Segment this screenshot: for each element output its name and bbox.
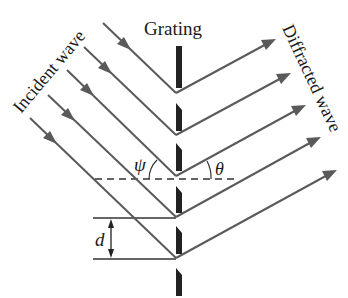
diffraction-angle-arc: [207, 161, 211, 179]
grating-bar-4: [176, 186, 182, 213]
diffraction-grating-diagram: Grating Incident wave Diffracted wave ψ …: [0, 0, 348, 298]
diffracted-ray-4: [176, 139, 317, 217]
arrow-down-icon: [108, 249, 114, 258]
incidence-angle-arc: [149, 160, 157, 179]
incidence-angle-label: ψ: [134, 154, 147, 175]
grating-bar-1: [176, 46, 182, 88]
diffraction-angle-label: θ: [215, 159, 224, 179]
grating-bar-5: [176, 226, 182, 254]
diffracted-wave-label: Diffracted wave: [278, 21, 345, 135]
arrowhead-icon: [322, 170, 337, 181]
slit-spacing-label: d: [95, 229, 105, 250]
arrowhead-icon: [261, 39, 276, 50]
arrowhead-icon: [276, 73, 291, 84]
incident-ray-3: [67, 70, 176, 176]
incident-wave-label: Incident wave: [9, 26, 90, 117]
grating-label: Grating: [144, 18, 203, 39]
grating-bar-2: [176, 103, 182, 131]
diffracted-ray-1: [176, 41, 272, 93]
incident-ray-2: [84, 47, 176, 135]
spacing-dimension-arrow: [108, 219, 114, 258]
arrowhead-icon: [291, 105, 306, 116]
diffracted-ray-3: [176, 107, 302, 176]
grating-bar-6: [176, 268, 182, 296]
diffracted-ray-5: [176, 172, 333, 258]
arrowhead-icon: [306, 137, 321, 148]
grating-bar-3: [176, 143, 182, 171]
arrow-up-icon: [108, 219, 114, 228]
